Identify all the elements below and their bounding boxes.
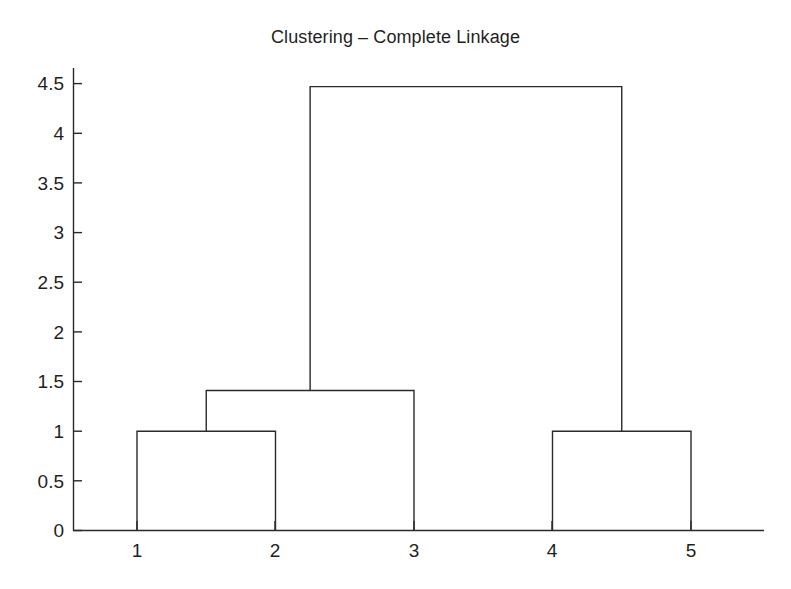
y-tick-label-2: 2 xyxy=(53,322,64,343)
y-tick-label-0: 0 xyxy=(53,520,64,541)
dendrogram-link xyxy=(137,431,276,530)
x-tick-label-5: 5 xyxy=(686,540,697,561)
y-axis-ticks: 0 0.5 1 1.5 2 2.5 3 3.5 4 4.5 xyxy=(38,73,82,541)
dendrogram-figure: Clustering – Complete Linkage 0 0.5 1 1.… xyxy=(0,0,791,589)
y-tick-label-4: 4 xyxy=(53,123,64,144)
y-tick-label-1.5: 1.5 xyxy=(38,371,64,392)
y-tick-label-0.5: 0.5 xyxy=(38,471,64,492)
x-tick-label-1: 1 xyxy=(132,540,143,561)
x-tick-label-3: 3 xyxy=(409,540,420,561)
x-tick-label-4: 4 xyxy=(547,540,558,561)
dendrogram-plot: 0 0.5 1 1.5 2 2.5 3 3.5 4 4.5 1 xyxy=(0,0,791,589)
x-tick-label-2: 2 xyxy=(270,540,281,561)
dendrogram-link xyxy=(206,390,414,530)
y-tick-label-3.5: 3.5 xyxy=(38,173,64,194)
y-tick-label-1: 1 xyxy=(53,421,64,442)
y-tick-label-3: 3 xyxy=(53,222,64,243)
axes-spines xyxy=(73,68,764,531)
dendrogram-links xyxy=(137,87,691,531)
dendrogram-link xyxy=(553,431,692,530)
y-tick-label-2.5: 2.5 xyxy=(38,272,64,293)
dendrogram-link xyxy=(310,87,622,432)
y-tick-label-4.5: 4.5 xyxy=(38,73,64,94)
